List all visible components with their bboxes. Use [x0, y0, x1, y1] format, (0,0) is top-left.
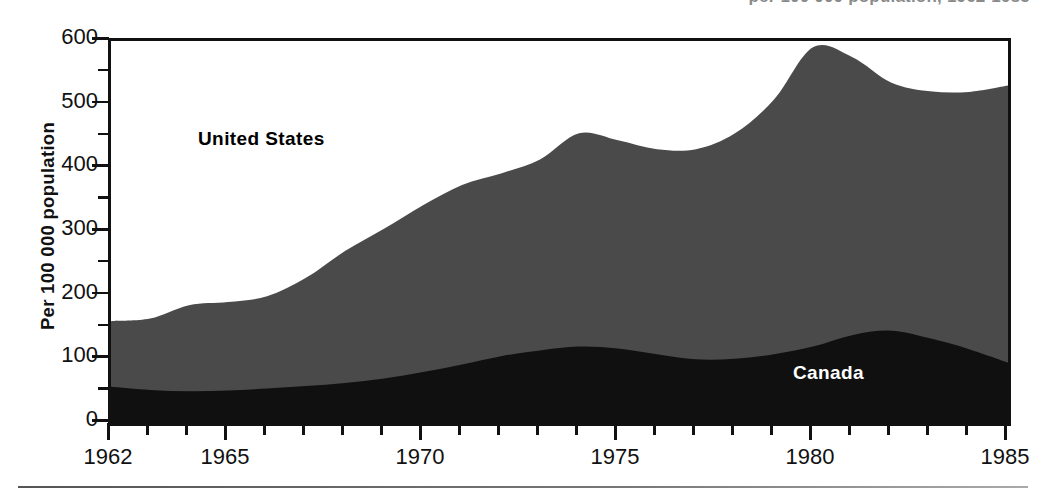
x-tick-mark-minor	[653, 423, 656, 435]
y-tick-labels: 6005004003002001000	[24, 0, 98, 500]
y-tick-label: 400	[32, 153, 98, 175]
y-tick-label: 0	[32, 408, 98, 430]
x-tick-mark-minor	[692, 423, 695, 435]
x-tick-mark-major	[107, 423, 110, 440]
y-tick-mark-major	[92, 228, 109, 231]
x-tick-labels: 196219651970197519801985	[0, 444, 1043, 478]
y-tick-mark-major	[92, 419, 109, 422]
series-label-canada: Canada	[793, 362, 864, 384]
x-tick-mark-minor	[302, 423, 305, 435]
y-tick-label: 100	[32, 344, 98, 366]
x-tick-label: 1970	[396, 444, 445, 470]
x-tick-mark-minor	[341, 423, 344, 435]
y-tick-label: 600	[32, 26, 98, 48]
y-tick-mark-major	[92, 355, 109, 358]
x-tick-mark-minor	[380, 423, 383, 435]
x-tick-mark-minor	[458, 423, 461, 435]
x-tick-label: 1965	[201, 444, 250, 470]
x-tick-mark-minor	[926, 423, 929, 435]
x-tick-mark-major	[809, 423, 812, 440]
y-tick-label: 500	[32, 90, 98, 112]
x-tick-mark-major	[1004, 423, 1007, 440]
x-tick-label: 1980	[786, 444, 835, 470]
x-tick-mark-minor	[770, 423, 773, 435]
plot-area	[108, 38, 1011, 426]
y-tick-label: 200	[32, 281, 98, 303]
chart-page: per 100 000 population, 1962-1985 Per 10…	[0, 0, 1043, 500]
x-tick-mark-minor	[263, 423, 266, 435]
y-tick-mark-major	[92, 37, 109, 40]
x-tick-label: 1985	[981, 444, 1030, 470]
series-label-united-states: United States	[198, 128, 325, 150]
x-tick-marks	[108, 423, 1008, 443]
y-tick-mark-major	[92, 292, 109, 295]
chart-title: per 100 000 population, 1962-1985	[560, 0, 1030, 5]
y-tick-mark-major	[92, 101, 109, 104]
x-tick-label: 1962	[84, 444, 133, 470]
x-tick-mark-minor	[887, 423, 890, 435]
stacked-area-svg	[111, 41, 1008, 423]
x-tick-mark-major	[614, 423, 617, 440]
x-tick-mark-minor	[848, 423, 851, 435]
x-tick-mark-minor	[185, 423, 188, 435]
footer-rule	[18, 486, 1028, 488]
x-tick-mark-major	[419, 423, 422, 440]
x-tick-mark-minor	[965, 423, 968, 435]
x-tick-mark-minor	[146, 423, 149, 435]
x-tick-mark-major	[224, 423, 227, 440]
x-tick-mark-minor	[731, 423, 734, 435]
x-tick-mark-minor	[575, 423, 578, 435]
x-tick-label: 1975	[591, 444, 640, 470]
x-tick-mark-minor	[536, 423, 539, 435]
x-tick-mark-minor	[497, 423, 500, 435]
y-tick-label: 300	[32, 217, 98, 239]
y-tick-mark-major	[92, 164, 109, 167]
